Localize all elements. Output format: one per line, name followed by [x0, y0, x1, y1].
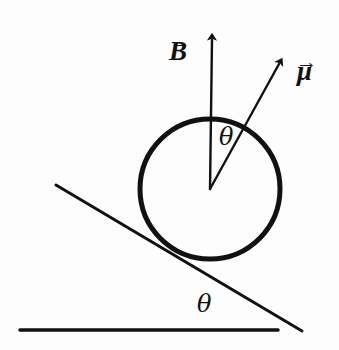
physics-diagram: → B → μ θ θ: [0, 0, 339, 350]
vector-accent-icon: →: [296, 52, 317, 73]
magnetic-field-vector: [210, 40, 212, 189]
magnetic-field-label: → B: [168, 38, 188, 65]
vector-accent-icon: →: [169, 32, 190, 53]
angle-theta-bottom-label: θ: [197, 292, 211, 316]
angle-theta-top-label: θ: [219, 125, 233, 149]
incline-line: [56, 185, 302, 331]
magnetic-moment-label: → μ: [296, 58, 313, 85]
